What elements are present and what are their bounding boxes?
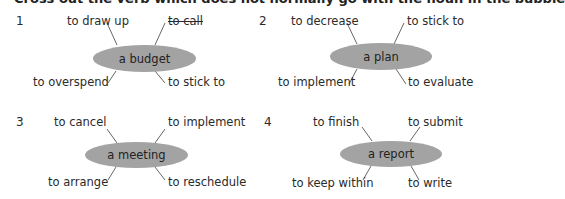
verb-option[interactable]: to decrease bbox=[291, 14, 359, 28]
noun-label: a plan bbox=[363, 50, 399, 64]
verb-option[interactable]: to stick to bbox=[168, 75, 225, 89]
noun-label: a report bbox=[368, 147, 414, 161]
verb-option[interactable]: to evaluate bbox=[408, 75, 473, 89]
noun-bubble: a budget bbox=[93, 45, 196, 72]
verb-option[interactable]: to draw up bbox=[67, 14, 129, 28]
verb-option[interactable]: to submit bbox=[408, 115, 463, 129]
exercise-number: 1 bbox=[16, 14, 24, 28]
verb-option[interactable]: to arrange bbox=[48, 175, 108, 189]
noun-bubble: a report bbox=[340, 141, 442, 167]
verb-option[interactable]: to keep within bbox=[292, 176, 373, 190]
verb-option-crossed-out[interactable]: to call bbox=[168, 14, 203, 28]
verb-option[interactable]: to stick to bbox=[407, 14, 464, 28]
noun-label: a meeting bbox=[107, 148, 165, 162]
verb-option[interactable]: to implement bbox=[278, 75, 355, 89]
exercise-number: 2 bbox=[259, 14, 267, 28]
verb-option[interactable]: to cancel bbox=[54, 115, 106, 129]
verb-option[interactable]: to reschedule bbox=[168, 175, 246, 189]
exercise-number: 4 bbox=[264, 115, 272, 129]
noun-bubble: a meeting bbox=[85, 142, 188, 168]
verb-option[interactable]: to implement bbox=[168, 115, 245, 129]
verb-option[interactable]: to write bbox=[408, 176, 452, 190]
exercise-number: 3 bbox=[16, 115, 24, 129]
verb-option[interactable]: to finish bbox=[313, 115, 359, 129]
noun-bubble: a plan bbox=[330, 43, 432, 70]
verb-option[interactable]: to overspend bbox=[33, 75, 109, 89]
noun-label: a budget bbox=[119, 52, 170, 66]
